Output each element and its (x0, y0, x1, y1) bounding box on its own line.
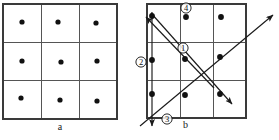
panel-a-dot-9 (94, 98, 99, 103)
panel-a-dot-4 (19, 58, 24, 63)
panel-b-grid (147, 4, 246, 118)
panel-b-dot-6 (217, 54, 223, 60)
panel-a-dot-6 (94, 58, 99, 63)
panel-b-frame (147, 4, 246, 118)
panel-b-marker-2: 2 (136, 57, 146, 67)
marker-label-1: 1 (181, 43, 185, 53)
panel-b-dot-8 (182, 92, 188, 98)
panel-a-dot-3 (93, 20, 98, 25)
panel-b-arrows (140, 12, 273, 126)
panel-a-dot-7 (18, 95, 23, 100)
panel-b-marker-3: 3 (162, 114, 172, 124)
panel-a-dot-1 (19, 19, 24, 24)
panel-a-dots (18, 19, 99, 103)
panel-b-dot-1 (149, 13, 155, 19)
panel-a-caption: a (58, 121, 63, 132)
panel-a: a (3, 4, 117, 132)
panel-a-dot-8 (57, 97, 62, 102)
panel-b-dot-4 (149, 57, 155, 63)
panel-b-dot-9 (217, 91, 223, 97)
figure-root: a 1234 b (0, 0, 279, 140)
panel-b-dot-7 (149, 91, 155, 97)
panel-b-marker-1: 1 (178, 43, 188, 53)
panel-b-dot-2 (183, 14, 189, 20)
panel-b-dot-5 (182, 56, 188, 62)
panel-a-dot-5 (58, 59, 63, 64)
marker-label-3: 3 (165, 114, 169, 124)
panel-b-marker-4: 4 (181, 3, 191, 13)
marker-label-2: 2 (139, 57, 143, 67)
two-panel-grid-figure: a 1234 b (0, 0, 279, 140)
panel-b: 1234 b (136, 3, 273, 130)
panel-b-dot-3 (218, 14, 224, 20)
panel-a-dot-2 (55, 19, 60, 24)
panel-b-caption: b (183, 119, 188, 130)
